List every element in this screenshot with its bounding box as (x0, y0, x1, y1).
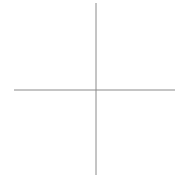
axes-diagram (0, 0, 186, 192)
